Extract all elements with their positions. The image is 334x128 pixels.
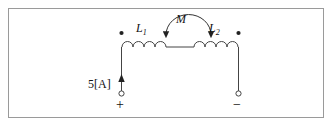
- mutual-coupling-arc: [166, 15, 211, 35]
- inductor-L1-coil: [122, 42, 166, 47]
- mutual-coupling-label: M: [176, 13, 186, 25]
- current-source-label: 5[A]: [88, 78, 111, 90]
- inductor-L2-label: L2: [209, 22, 220, 37]
- terminal-right-node: [236, 91, 241, 96]
- inductor-L2-coil: [194, 42, 238, 47]
- circuit-schematic: [0, 0, 334, 128]
- figure-canvas: L1 L2 M 5[A] + −: [0, 0, 334, 128]
- polarity-dot-right-icon: [236, 31, 240, 35]
- inductor-L2-label-subscript: 2: [216, 28, 220, 37]
- current-arrow-icon: [118, 74, 124, 82]
- terminal-positive-label: +: [116, 98, 124, 112]
- inductor-L1-label: L1: [136, 22, 147, 37]
- terminal-left-node: [119, 91, 124, 96]
- inductor-L2-label-text: L: [209, 21, 216, 35]
- inductor-L1-label-text: L: [136, 21, 143, 35]
- terminal-negative-label: −: [233, 98, 241, 112]
- inductor-L1-label-subscript: 1: [143, 28, 147, 37]
- polarity-dot-left-icon: [119, 31, 123, 35]
